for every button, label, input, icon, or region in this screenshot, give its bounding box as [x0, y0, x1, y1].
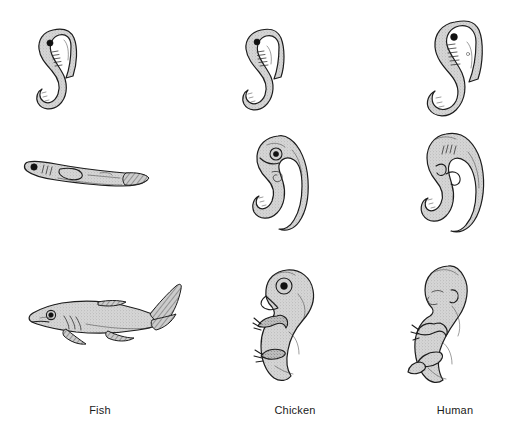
- fish-stage-1-eye: [47, 40, 53, 46]
- embryo-fish-stage-1: [28, 18, 94, 118]
- embryo-human-stage-3: [404, 262, 496, 388]
- column-label-chicken: Chicken: [255, 404, 335, 416]
- fish-stage-2-tail-fin: [123, 173, 149, 185]
- embryo-fish-stage-2: [22, 148, 152, 198]
- embryo-fish-stage-3: [24, 280, 184, 364]
- embryo-human-stage-2: [418, 130, 494, 238]
- chicken-stage-1-eye: [254, 39, 260, 45]
- chicken-stage-1-drawing: [234, 20, 298, 120]
- fish-stage-2-drawing: [22, 148, 152, 198]
- chicken-stage-2-drawing: [248, 132, 320, 236]
- chicken-stage-3-drawing: [253, 266, 339, 382]
- embryo-human-stage-1: [421, 14, 497, 124]
- embryo-chicken-stage-1: [234, 20, 298, 120]
- embryo-chicken-stage-3: [253, 266, 339, 382]
- human-stage-1-drawing: [421, 14, 497, 124]
- fish-stage-3-drawing: [24, 280, 184, 364]
- human-stage-1-eye: [451, 34, 458, 41]
- fish-stage-1-drawing: [28, 18, 94, 118]
- column-label-fish: Fish: [60, 404, 140, 416]
- embryology-figure: Fish Chicken Human: [0, 0, 506, 440]
- human-stage-2-drawing: [418, 130, 494, 238]
- human-stage-3-drawing: [404, 262, 496, 388]
- embryo-chicken-stage-2: [248, 132, 320, 236]
- column-label-human: Human: [415, 404, 495, 416]
- fish-stage-2-eye: [31, 164, 37, 170]
